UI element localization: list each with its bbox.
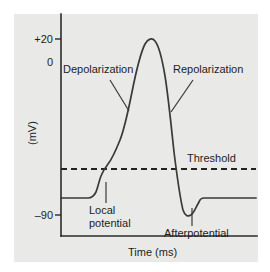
y-tick-label-zero: 0: [27, 56, 53, 68]
y-tick-label-minus90: –90: [24, 209, 53, 221]
annotation-afterpotential: Afterpotential: [164, 227, 229, 239]
action-potential-figure: +20 0 –90 (mV) Time (ms) Depolarization …: [0, 0, 270, 272]
y-axis-title: (mV): [26, 121, 38, 145]
annotation-threshold: Threshold: [187, 152, 236, 164]
y-tick-label-plus20: +20: [27, 33, 53, 45]
x-axis-title: Time (ms): [128, 246, 177, 258]
repolarization-leader-line: [171, 80, 193, 112]
depolarization-leader-line: [110, 80, 129, 111]
annotation-depolarization: Depolarization: [63, 63, 133, 75]
annotation-repolarization: Repolarization: [173, 63, 243, 75]
annotation-local-potential: Local potential: [89, 204, 131, 229]
